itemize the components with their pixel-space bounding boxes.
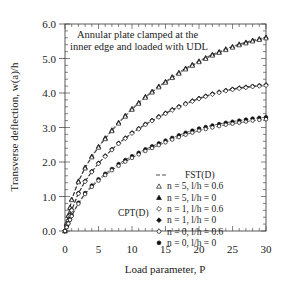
fst-dashed-line	[65, 85, 266, 231]
x-tick-label: 0	[62, 243, 68, 255]
annotation-line-1: Annular plate clamped at the	[77, 29, 199, 40]
y-tick-label: 4.0	[42, 87, 56, 99]
y-axis-label: Transverse deflection, w(a)/h	[8, 62, 21, 191]
fst-dashed-line	[65, 38, 266, 231]
x-tick-label: 5	[96, 243, 102, 255]
x-axis-label: Load parameter, P	[125, 263, 206, 275]
y-tick-label: 3.0	[42, 122, 56, 134]
y-tick-label: 2.0	[42, 156, 56, 168]
y-tick-label: 1.0	[42, 191, 56, 203]
legend-label: FST(D)	[185, 170, 215, 181]
x-tick-label: 25	[227, 243, 239, 255]
y-tick-label: 5.0	[42, 53, 56, 65]
legend-label: n = 1, l/h = 0.6	[167, 204, 224, 214]
series-filled-triangle	[63, 35, 268, 233]
legend-label: n = 5, l/h = 0.6	[167, 181, 224, 191]
legend-item: n = 1, l/h = 0	[157, 215, 217, 225]
legend-cpt-label: CPT(D)	[118, 208, 149, 219]
annotation-line-2: inner edge and loaded with UDL	[70, 41, 208, 52]
y-tick-label: 6.0	[42, 18, 56, 30]
legend-item: n = 0, l/h = 0.6	[157, 227, 224, 237]
series-filled-circle	[63, 115, 268, 232]
legend-label: n = 0, l/h = 0	[167, 238, 216, 248]
legend: CPT(D)FST(D)n = 5, l/h = 0.6n = 5, l/h =…	[118, 170, 224, 248]
x-tick-label: 10	[127, 243, 139, 255]
legend-label: n = 5, l/h = 0	[167, 193, 216, 203]
legend-label: n = 0, l/h = 0.6	[167, 227, 224, 237]
plot-border	[65, 24, 266, 231]
series-open-triangle	[63, 36, 268, 233]
legend-item: n = 1, l/h = 0.6	[157, 204, 224, 214]
y-tick-label: 0.0	[42, 225, 56, 237]
series-layer	[63, 35, 268, 233]
fst-dashed-line	[65, 117, 266, 231]
plot-area	[65, 24, 266, 231]
legend-item: FST(D)	[156, 170, 215, 181]
x-tick-label: 30	[261, 243, 273, 255]
legend-label: n = 1, l/h = 0	[167, 215, 216, 225]
fst-dashed-line	[65, 37, 266, 231]
chart-svg: 0510152025300.01.02.03.04.05.06.0 CPT(D)…	[0, 0, 290, 288]
fst-dashed-line	[65, 85, 266, 231]
chart-figure: 0510152025300.01.02.03.04.05.06.0 CPT(D)…	[0, 0, 290, 288]
legend-item: n = 5, l/h = 0.6	[157, 181, 224, 191]
legend-item: n = 5, l/h = 0	[157, 193, 217, 203]
